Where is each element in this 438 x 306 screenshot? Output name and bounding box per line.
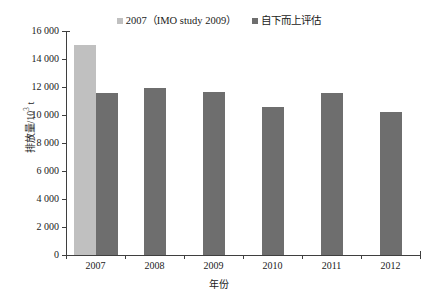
y-axis-tick-label: 6 000 — [37, 166, 60, 176]
y-axis-title: 排放量/103 t — [24, 88, 35, 168]
chart-legend: 2007（IMO study 2009） 自下而上评估 — [0, 16, 438, 27]
x-axis-tick-label: 2008 — [125, 261, 184, 271]
x-axis-tick-label: 2007 — [66, 261, 125, 271]
x-axis-tick — [302, 255, 303, 259]
y-axis-tick-label: 0 — [54, 250, 59, 260]
chart-bar[interactable] — [203, 92, 225, 255]
x-axis-tick-label: 2012 — [361, 261, 420, 271]
x-axis-tick — [243, 255, 244, 259]
y-axis-title-main: 排放量/10 — [25, 111, 36, 154]
y-axis-tick-label: 8 000 — [37, 138, 60, 148]
y-axis-title-unit: t — [25, 102, 36, 107]
legend-label-bottom-up: 自下而上评估 — [261, 16, 321, 27]
x-axis-tick — [125, 255, 126, 259]
y-axis-tick-label: 4 000 — [37, 194, 60, 204]
chart-bar[interactable] — [321, 93, 343, 255]
chart-bar[interactable] — [262, 107, 284, 255]
legend-item-bottom-up[interactable]: 自下而上评估 — [252, 16, 321, 27]
x-axis-tick — [361, 255, 362, 259]
x-axis-title: 年份 — [0, 280, 438, 290]
x-axis-tick-label: 2009 — [184, 261, 243, 271]
x-axis-tick-label: 2011 — [302, 261, 361, 271]
chart-bar[interactable] — [96, 93, 118, 255]
x-axis-tick — [184, 255, 185, 259]
plot-area — [66, 31, 420, 255]
bar-chart: 2007（IMO study 2009） 自下而上评估 02 0004 0006… — [0, 0, 438, 306]
x-axis-tick — [66, 255, 67, 259]
legend-swatch-icon-bottom-up — [252, 18, 258, 24]
legend-label-imo-study: 2007（IMO study 2009） — [126, 16, 236, 27]
y-axis-tick-label: 14 000 — [32, 54, 60, 64]
legend-swatch-icon-imo-study — [117, 18, 123, 24]
y-axis-tick-label: 16 000 — [32, 26, 60, 36]
chart-bar[interactable] — [144, 88, 166, 255]
x-axis-tick-label: 2010 — [243, 261, 302, 271]
y-axis-title-exponent: 3 — [23, 107, 31, 111]
chart-bar[interactable] — [380, 112, 402, 255]
chart-bar[interactable] — [74, 45, 96, 255]
legend-item-imo-study[interactable]: 2007（IMO study 2009） — [117, 16, 236, 27]
x-axis-tick — [420, 255, 421, 259]
y-axis-tick-label: 2 000 — [37, 222, 60, 232]
